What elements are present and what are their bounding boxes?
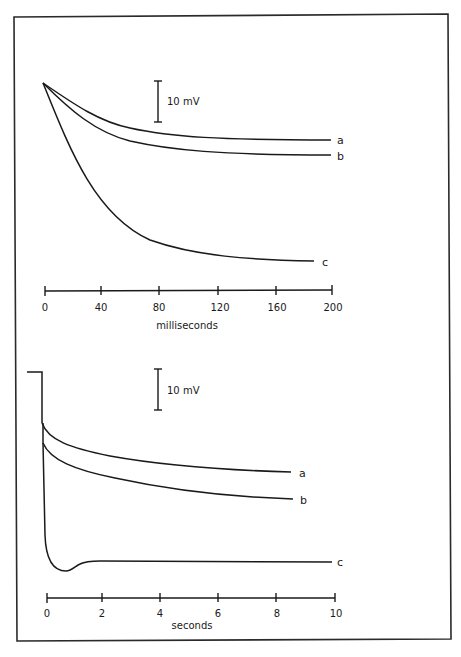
top-scale-bar: 10 mV (154, 81, 200, 122)
bottom-tick-8: 8 (274, 608, 280, 619)
bottom-tick-10: 10 (330, 608, 343, 619)
top-x-axis-title: milliseconds (156, 320, 218, 331)
top-curve-a (43, 83, 331, 140)
top-tick-0: 0 (42, 302, 48, 313)
bottom-tick-4: 4 (157, 608, 163, 619)
bottom-x-axis-title: seconds (172, 620, 213, 631)
bottom-label-b: b (300, 494, 307, 507)
bottom-tick-0: 0 (44, 608, 50, 619)
bottom-scale-bar: 10 mV (154, 369, 200, 410)
top-tick-120: 120 (210, 302, 229, 313)
top-tick-200: 200 (323, 302, 342, 313)
bottom-baseline (27, 372, 42, 423)
bottom-tick-6: 6 (215, 608, 221, 619)
figure-frame (14, 14, 451, 641)
top-tick-80: 80 (153, 302, 166, 313)
top-panel: 10 mV a b c 0 40 80 120 160 200 millisec… (42, 81, 344, 331)
bottom-curve-a (42, 423, 291, 472)
top-tick-40: 40 (95, 302, 108, 313)
bottom-scale-label: 10 mV (167, 385, 200, 396)
bottom-label-a: a (299, 467, 306, 480)
top-scale-label: 10 mV (167, 96, 200, 107)
top-x-axis: 0 40 80 120 160 200 milliseconds (42, 285, 343, 331)
bottom-curve-c (43, 443, 332, 571)
bottom-tick-2: 2 (99, 608, 105, 619)
bottom-x-axis: 0 2 4 6 8 10 seconds (44, 593, 343, 631)
bottom-label-c: c (337, 556, 343, 569)
top-label-a: a (337, 134, 344, 147)
top-tick-160: 160 (267, 302, 286, 313)
top-label-b: b (337, 150, 344, 163)
top-label-c: c (322, 256, 328, 269)
bottom-panel: 10 mV a b c 0 2 4 6 8 10 seconds (27, 369, 343, 631)
figure: 10 mV a b c 0 40 80 120 160 200 millisec… (0, 0, 461, 657)
bottom-curve-b (43, 423, 293, 499)
top-curve-b (43, 83, 331, 155)
